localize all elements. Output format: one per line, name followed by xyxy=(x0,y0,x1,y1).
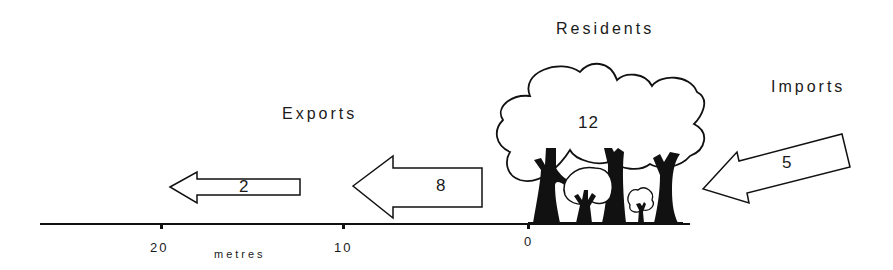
flow-diagram xyxy=(0,0,893,270)
imports-label: Imports xyxy=(771,78,845,96)
export-far-value: 2 xyxy=(239,177,249,197)
export-arrow-near-icon xyxy=(353,156,482,218)
tick-20 xyxy=(160,224,163,229)
export-near-value: 8 xyxy=(436,176,446,196)
tick-0 xyxy=(527,224,530,229)
imports-value: 5 xyxy=(782,153,792,173)
import-arrow-icon xyxy=(703,134,850,203)
export-arrow-far-icon xyxy=(170,172,300,203)
tick-label-10: 10 xyxy=(334,240,352,255)
residents-value: 12 xyxy=(578,113,599,133)
exports-label: Exports xyxy=(282,105,357,123)
residents-label: Residents xyxy=(556,20,654,38)
tick-label-20: 20 xyxy=(150,240,168,255)
resident-trees-icon xyxy=(497,64,704,223)
tick-10 xyxy=(342,224,345,229)
tick-label-0: 0 xyxy=(524,234,533,249)
axis-unit-label: metres xyxy=(214,248,266,260)
